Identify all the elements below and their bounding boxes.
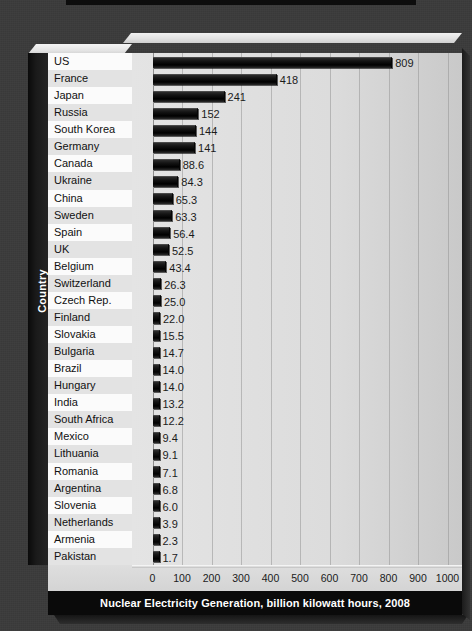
- bar: [153, 193, 173, 204]
- category-label-row: UK: [48, 241, 132, 258]
- bar-value-label: 84.3: [181, 176, 202, 188]
- bar-row: 3.9: [132, 514, 462, 531]
- bar-row: 12.2: [132, 411, 462, 428]
- category-label-row: China: [48, 190, 132, 207]
- bar-row: 14.7: [132, 343, 462, 360]
- bar: [153, 500, 160, 511]
- bar: [153, 312, 160, 323]
- x-tick-label: 600: [321, 572, 339, 584]
- category-label: US: [48, 56, 69, 67]
- category-label: South Korea: [48, 124, 115, 135]
- bar-value-label: 88.6: [183, 159, 204, 171]
- category-label: Ukraine: [48, 175, 92, 186]
- bar: [153, 466, 160, 477]
- bar-value-label: 241: [228, 91, 246, 103]
- bar-row: 52.5: [132, 241, 462, 258]
- category-label-row: Spain: [48, 224, 132, 241]
- category-label-row: Germany: [48, 138, 132, 155]
- bar-value-label: 14.0: [163, 381, 184, 393]
- category-label: Russia: [48, 107, 88, 118]
- bar-row: 2.3: [132, 531, 462, 548]
- x-tick-label: 0: [150, 572, 156, 584]
- bar-row: 56.4: [132, 224, 462, 241]
- bar-row: 6.0: [132, 497, 462, 514]
- category-label-row: South Korea: [48, 121, 132, 138]
- bar-value-label: 9.1: [163, 449, 178, 461]
- bar-value-label: 65.3: [176, 194, 197, 206]
- category-label-row: Canada: [48, 155, 132, 172]
- bar: [153, 347, 160, 358]
- bar: [153, 381, 160, 392]
- bar: [153, 483, 160, 494]
- bar-row: 65.3: [132, 190, 462, 207]
- x-tick-label: 1000: [436, 572, 459, 584]
- category-label-row: Argentina: [48, 480, 132, 497]
- bar-row: 418: [132, 70, 462, 87]
- chart-title: Nuclear Electricity Generation, billion …: [100, 597, 410, 609]
- right-side-face: [462, 48, 470, 620]
- bar: [153, 159, 180, 170]
- bar-row: 152: [132, 104, 462, 121]
- category-label-list: USFranceJapanRussiaSouth KoreaGermanyCan…: [48, 53, 132, 565]
- bar-row: 14.0: [132, 377, 462, 394]
- bar-value-label: 63.3: [175, 211, 196, 223]
- bar-row: 25.0: [132, 292, 462, 309]
- bar-value-label: 22.0: [163, 313, 184, 325]
- category-label-row: Mexico: [48, 428, 132, 445]
- chart-title-bar: Nuclear Electricity Generation, billion …: [48, 591, 462, 615]
- category-label: Netherlands: [48, 517, 113, 528]
- bar-row: 63.3: [132, 207, 462, 224]
- x-tick-label: 500: [291, 572, 309, 584]
- category-label: Germany: [48, 141, 99, 152]
- category-label: Slovenia: [48, 500, 96, 511]
- bar-row: 1.7: [132, 548, 462, 565]
- category-label: Romania: [48, 466, 98, 477]
- chart-3d-block: Country USFranceJapanRussiaSouth KoreaGe…: [10, 30, 462, 605]
- bar-value-label: 6.8: [163, 484, 178, 496]
- category-label: Argentina: [48, 483, 101, 494]
- bar: [153, 398, 160, 409]
- bar: [153, 330, 160, 341]
- bar-value-label: 14.7: [163, 347, 184, 359]
- bar-row: 9.1: [132, 445, 462, 462]
- x-tick-label: 400: [262, 572, 280, 584]
- bar-value-label: 2.3: [163, 535, 178, 547]
- category-label-row: Hungary: [48, 377, 132, 394]
- category-label-row: Romania: [48, 463, 132, 480]
- category-label: Switzerland: [48, 278, 111, 289]
- bar-value-label: 26.3: [164, 279, 185, 291]
- bar-row: 13.2: [132, 394, 462, 411]
- category-label-row: Bulgaria: [48, 343, 132, 360]
- category-label: Finland: [48, 312, 90, 323]
- bar: [153, 142, 196, 153]
- bar-row: 6.8: [132, 480, 462, 497]
- bar: [153, 57, 393, 68]
- bar-value-label: 3.9: [163, 518, 178, 530]
- bar-series: 80941824115214414188.684.365.363.356.452…: [132, 53, 462, 565]
- bar-value-label: 1.7: [163, 552, 178, 564]
- category-label: South Africa: [48, 414, 113, 425]
- category-label-row: Ukraine: [48, 172, 132, 189]
- bar-value-label: 152: [201, 108, 219, 120]
- bar-value-label: 418: [280, 74, 298, 86]
- bar-row: 9.4: [132, 428, 462, 445]
- bar-row: 809: [132, 53, 462, 70]
- category-label-row: Lithuania: [48, 445, 132, 462]
- x-tick-label: 300: [232, 572, 250, 584]
- x-tick-label: 100: [173, 572, 191, 584]
- bar: [153, 551, 160, 562]
- category-label-row: Czech Rep.: [48, 292, 132, 309]
- bar: [153, 295, 161, 306]
- bar: [153, 125, 196, 136]
- bar: [153, 415, 160, 426]
- category-label-row: Armenia: [48, 531, 132, 548]
- bar: [153, 227, 171, 238]
- category-label-column: USFranceJapanRussiaSouth KoreaGermanyCan…: [48, 53, 133, 565]
- bar-value-label: 809: [395, 57, 413, 69]
- bar-row: 141: [132, 138, 462, 155]
- category-label: Belgium: [48, 261, 94, 272]
- bar: [153, 108, 199, 119]
- category-label: UK: [48, 244, 69, 255]
- category-label-row: Pakistan: [48, 548, 132, 565]
- bar: [153, 534, 160, 545]
